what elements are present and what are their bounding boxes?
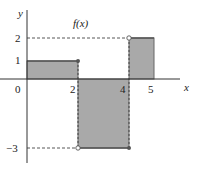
region-0-2 xyxy=(27,61,78,79)
x-tick-4: 4 xyxy=(120,83,126,95)
open-dot-4-2 xyxy=(127,36,131,40)
y-tick-1: 1 xyxy=(15,54,21,66)
x-axis-label: x xyxy=(183,81,189,93)
x-tick-5: 5 xyxy=(148,83,154,95)
function-label: f(x) xyxy=(73,17,89,30)
y-axis-label: y xyxy=(17,7,23,19)
x-tick-2: 2 xyxy=(70,83,76,95)
step-function-chart: y f(x) 2 1 0 2 4 5 x −3 xyxy=(0,0,206,173)
y-tick-2: 2 xyxy=(15,32,21,44)
closed-dot-2-1 xyxy=(76,59,80,63)
closed-dot-4-m3 xyxy=(127,146,131,150)
open-dot-2-m3 xyxy=(76,146,80,150)
origin-label: 0 xyxy=(15,83,21,95)
region-4-5 xyxy=(129,38,154,79)
y-tick-m3: −3 xyxy=(6,142,18,154)
